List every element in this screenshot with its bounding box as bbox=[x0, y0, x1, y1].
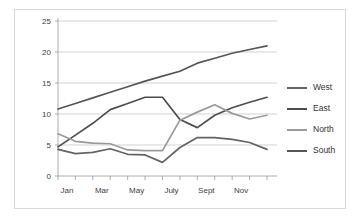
y-tick-label: 20 bbox=[42, 48, 51, 57]
x-axis-tick-marks bbox=[58, 176, 267, 180]
x-tick-label: Nov bbox=[234, 186, 248, 195]
x-tick-label: Mar bbox=[95, 186, 109, 195]
y-tick-label: 10 bbox=[42, 110, 51, 119]
series-line-south bbox=[58, 46, 267, 109]
legend-label-east: East bbox=[313, 103, 331, 113]
y-tick-label: 0 bbox=[47, 172, 52, 181]
x-tick-label: May bbox=[129, 186, 144, 195]
legend-label-west: West bbox=[313, 82, 333, 92]
x-tick-label: Jan bbox=[61, 186, 74, 195]
series-line-north bbox=[58, 105, 267, 151]
chart-legend: WestEastNorthSouth bbox=[287, 82, 335, 155]
y-tick-label: 15 bbox=[42, 79, 51, 88]
y-tick-label: 25 bbox=[42, 17, 51, 26]
y-tick-label: 5 bbox=[47, 141, 52, 150]
legend-label-south: South bbox=[313, 145, 335, 155]
line-chart: 0510152025 JanMarMayJulySeptNov WestEast… bbox=[15, 10, 345, 208]
x-tick-label: July bbox=[164, 186, 178, 195]
legend-label-north: North bbox=[313, 124, 334, 134]
y-axis-tick-labels: 0510152025 bbox=[42, 17, 58, 181]
x-tick-label: Sept bbox=[198, 186, 215, 195]
gridlines-group bbox=[58, 21, 277, 145]
x-axis-tick-labels: JanMarMayJulySeptNov bbox=[61, 186, 249, 195]
chart-container: 0510152025 JanMarMayJulySeptNov WestEast… bbox=[14, 9, 346, 209]
